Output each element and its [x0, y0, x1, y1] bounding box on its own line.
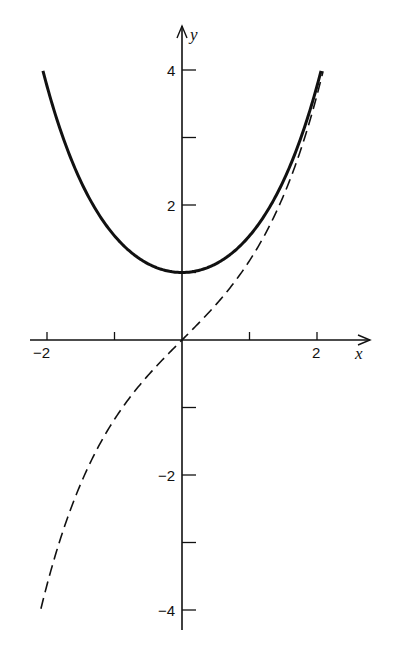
x-axis: −22 x	[30, 332, 370, 363]
y-tick-label: 2	[167, 197, 175, 214]
y-tick-label: −2	[158, 467, 175, 484]
y-tick-label: −4	[158, 602, 175, 619]
y-axis: 42−2−4 y	[158, 25, 198, 630]
x-tick-label: 2	[312, 344, 320, 361]
x-tick-labels: −22	[33, 344, 320, 361]
x-axis-label: x	[354, 344, 363, 363]
y-axis-label: y	[188, 25, 198, 44]
y-tick-label: 4	[167, 62, 175, 79]
chart-plot: −22 x 42−2−4 y	[0, 0, 400, 652]
x-tick-label: −2	[33, 344, 50, 361]
